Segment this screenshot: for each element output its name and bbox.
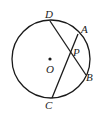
circle-diagram: D A P O B C (0, 0, 102, 118)
label-a: A (80, 23, 88, 35)
label-o: O (46, 63, 54, 75)
label-c: C (45, 99, 53, 111)
center-point (48, 57, 51, 60)
label-p: P (72, 46, 80, 58)
label-b: B (86, 71, 93, 83)
label-d: D (44, 8, 53, 20)
